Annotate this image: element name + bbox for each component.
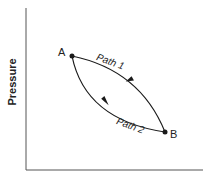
point-b-dot (163, 130, 168, 135)
point-a-label: A (58, 46, 65, 58)
y-axis-label: Pressure (6, 56, 18, 108)
pv-diagram: Pressure A B Path 1 Path 2 (0, 0, 203, 171)
path-2-arrow-icon (101, 96, 110, 106)
diagram-canvas (0, 0, 203, 171)
path-1-arrow-icon (126, 75, 135, 82)
point-a-dot (70, 54, 75, 59)
point-b-label: B (170, 128, 177, 140)
